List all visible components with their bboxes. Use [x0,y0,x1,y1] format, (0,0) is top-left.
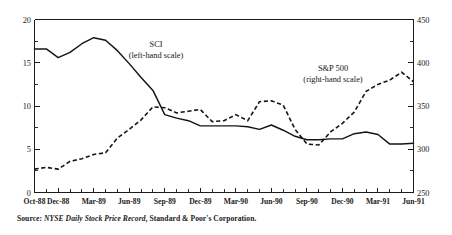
x-tick-label: Jun-90 [260,197,283,206]
x-tick-label: Sep-90 [296,197,318,206]
source-remainder: , Standard & Poor's Corporation. [145,214,256,223]
x-tick-label: Oct-88 [24,197,46,206]
right-tick-label: 300 [417,145,429,154]
source-prefix: Source: [17,214,42,223]
left-tick-label: 20 [23,16,31,25]
x-tick-label: Dec-88 [47,197,70,206]
dual-axis-line-chart: 05101520 250300350400450 Oct-88Dec-88Mar… [0,0,452,235]
x-tick-label: Jun-91 [402,197,425,206]
right-axis-ticks [408,20,414,193]
plot-frame [35,20,414,193]
right-axis-tick-labels: 250300350400450 [417,16,429,198]
left-tick-label: 5 [27,145,31,154]
x-tick-label: Mar-89 [82,197,106,206]
left-axis-ticks [35,20,41,193]
source-publication: NYSE Daily Stock Price Record [44,214,145,223]
sci-annotation-line1: SCI [149,40,162,49]
sci-annotation-line2: (left-hand scale) [129,51,184,60]
x-axis-ticks [35,188,414,193]
x-tick-label: Sep-89 [154,197,176,206]
x-tick-label: Mar-91 [366,197,390,206]
left-tick-label: 15 [23,59,31,68]
left-tick-label: 10 [23,102,31,111]
sp500-annotation-line2: (right-hand scale) [303,75,363,84]
sci-annotation: SCI (left-hand scale) [129,40,184,60]
x-tick-label: Mar-90 [224,197,248,206]
right-tick-label: 450 [417,16,429,25]
left-axis-tick-labels: 05101520 [23,16,31,198]
series-line-sci [35,38,414,144]
sp500-annotation: S&P 500 (right-hand scale) [303,64,363,84]
x-tick-label: Dec-89 [189,197,212,206]
source-note: Source: NYSE Daily Stock Price Record, S… [17,214,256,223]
x-tick-label: Dec-90 [331,197,354,206]
sp500-annotation-line1: S&P 500 [318,64,348,73]
right-tick-label: 350 [417,102,429,111]
figure-container: 05101520 250300350400450 Oct-88Dec-88Mar… [0,0,452,235]
series-line-sp500 [35,72,414,169]
x-axis-tick-labels: Oct-88Dec-88Mar-89Jun-89Sep-89Dec-89Mar-… [24,197,425,206]
right-tick-label: 400 [417,59,429,68]
x-tick-label: Jun-89 [118,197,141,206]
